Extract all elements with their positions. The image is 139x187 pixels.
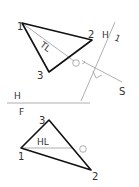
point-o-front: [80, 146, 87, 153]
label-h: H: [14, 91, 21, 101]
label-fold-1: 1: [113, 33, 122, 44]
front-view: 3 1 2 HL: [18, 115, 98, 182]
top-view: 1 2 3 TL H 1 S: [17, 21, 125, 101]
label-tl: TL: [37, 39, 52, 54]
label-fold-h: H: [102, 30, 109, 40]
label-hl: HL: [37, 137, 49, 147]
label-top-1: 1: [17, 21, 23, 32]
right-angle-mark: [93, 71, 102, 78]
fold-line-hf-group: H F: [7, 91, 90, 117]
label-s: S: [119, 86, 125, 97]
label-front-2: 2: [92, 171, 98, 182]
point-o-top: [73, 60, 80, 67]
label-front-1: 1: [18, 151, 24, 162]
fold-line-h1: [81, 22, 115, 101]
label-top-3: 3: [37, 70, 43, 81]
label-front-3: 3: [39, 115, 45, 126]
label-top-2: 2: [88, 29, 94, 40]
label-f: F: [19, 107, 24, 117]
sight-line: [84, 62, 122, 82]
front-view-triangle: [21, 120, 91, 170]
arrow-head-icon: [82, 61, 85, 64]
projection-diagram: 1 2 3 TL H 1 S H F 3 1 2 HL: [0, 0, 139, 187]
